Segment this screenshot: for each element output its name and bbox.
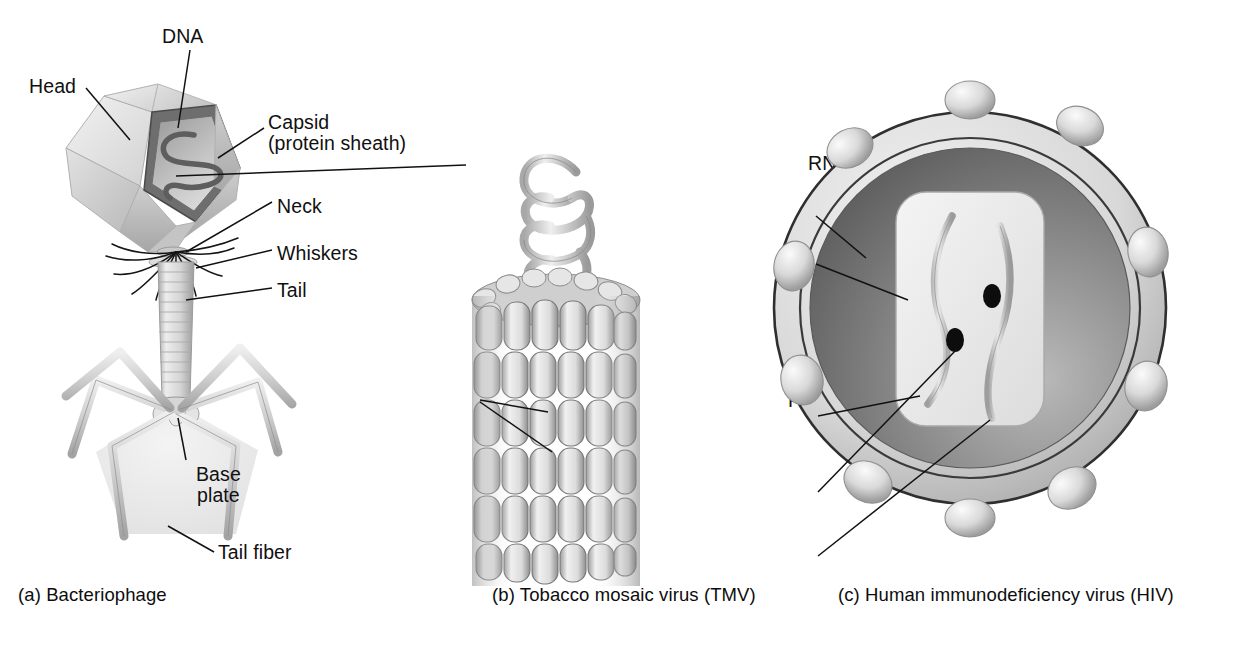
label-whiskers: Whiskers bbox=[277, 243, 358, 264]
caption-hiv: (c) Human immunodeficiency virus (HIV) bbox=[838, 584, 1174, 606]
label-tail: Tail bbox=[277, 280, 307, 301]
caption-tmv: (b) Tobacco mosaic virus (TMV) bbox=[492, 584, 756, 606]
figure-canvas: DNA Head Capsid (protein sheath) Neck Wh… bbox=[0, 0, 1237, 650]
enzyme-particle bbox=[983, 284, 1001, 308]
label-dna: DNA bbox=[162, 26, 203, 47]
label-neck: Neck bbox=[277, 196, 322, 217]
panel-bacteriophage: DNA Head Capsid (protein sheath) Neck Wh… bbox=[0, 0, 420, 650]
panel-tobacco-mosaic-virus: RNA Proteins bbox=[380, 0, 710, 650]
label-tail-fiber: Tail fiber bbox=[218, 542, 292, 563]
phage-tail bbox=[158, 262, 194, 398]
tmv-protein-coat bbox=[470, 268, 640, 586]
hiv-capsid bbox=[896, 192, 1044, 426]
leader-tail bbox=[186, 288, 272, 300]
label-head: Head bbox=[29, 76, 76, 97]
tmv-rna-helix-outline bbox=[524, 158, 591, 261]
leader-whiskers bbox=[196, 250, 272, 268]
hiv-illustration bbox=[670, 0, 1237, 650]
enzyme-particle bbox=[946, 328, 964, 352]
phage-head bbox=[66, 84, 240, 252]
label-base-plate: Base plate bbox=[196, 464, 241, 506]
caption-bacteriophage: (a) Bacteriophage bbox=[18, 584, 167, 606]
tmv-illustration bbox=[380, 0, 710, 650]
tmv-capsomere-rows bbox=[474, 300, 636, 584]
bacteriophage-illustration bbox=[0, 0, 420, 650]
panel-hiv: Envelope protein Envelope Capsid Enzyme … bbox=[670, 0, 1237, 650]
